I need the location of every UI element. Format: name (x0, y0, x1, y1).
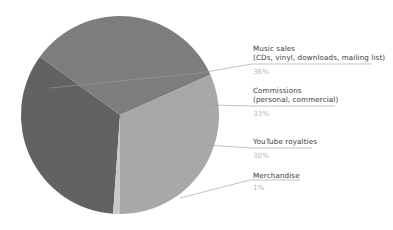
label-subtitle: (personal, commercial) (253, 95, 338, 104)
pct-commissions: 33% (253, 109, 269, 118)
pct-merchandise: 1% (253, 183, 264, 192)
pct-music-sales: 36% (253, 67, 269, 76)
leader-line-commissions (210, 105, 335, 106)
label-title: Music sales (253, 44, 385, 53)
pct-youtube: 30% (253, 151, 269, 160)
label-title: Merchandise (253, 171, 300, 180)
label-music-sales: Music sales (CDs, vinyl, downloads, mail… (253, 44, 385, 62)
leader-line-merchandise (180, 180, 300, 198)
label-merchandise: Merchandise (253, 171, 300, 180)
label-subtitle: (CDs, vinyl, downloads, mailing list) (253, 53, 385, 62)
label-commissions: Commissions (personal, commercial) (253, 86, 338, 104)
label-title: Commissions (253, 86, 338, 95)
pie-chart (0, 0, 393, 230)
label-title: YouTube royalties (253, 137, 317, 146)
label-youtube: YouTube royalties (253, 137, 317, 146)
